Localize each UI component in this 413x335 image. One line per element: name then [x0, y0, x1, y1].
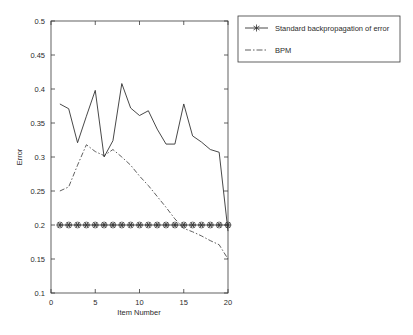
y-tick-label: 0.5	[35, 17, 45, 26]
x-axis-label: Item Number	[117, 308, 161, 317]
legend-label-bpm: BPM	[275, 46, 291, 55]
legend-box	[238, 16, 400, 62]
legend: Standard backpropagation of error BPM	[238, 16, 400, 62]
y-tick-label: 0.3	[35, 153, 45, 162]
x-tick-label: 15	[180, 298, 188, 307]
y-tick-label: 0.45	[30, 51, 45, 60]
legend-label-standard: Standard backpropagation of error	[275, 24, 390, 33]
y-tick-label: 0.35	[30, 119, 45, 128]
x-tick-label: 0	[49, 298, 53, 307]
y-tick-label: 0.2	[35, 221, 45, 230]
y-tick-label: 0.25	[30, 187, 45, 196]
y-tick-label: 0.15	[30, 255, 45, 264]
chart-figure: 0.10.150.20.250.30.350.40.450.5 05101520…	[0, 0, 413, 335]
x-tick-label: 5	[93, 298, 97, 307]
x-tick-label: 10	[135, 298, 143, 307]
y-tick-label: 0.4	[35, 85, 45, 94]
y-axis-label: Error	[15, 148, 24, 165]
y-tick-label: 0.1	[35, 289, 45, 298]
x-tick-label: 20	[224, 298, 232, 307]
